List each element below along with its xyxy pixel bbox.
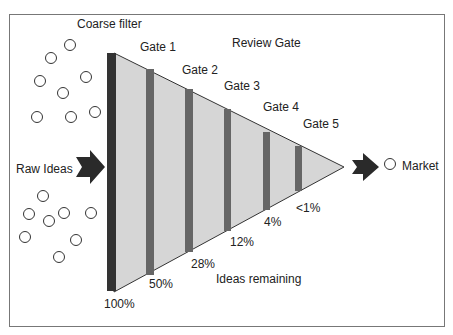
remaining-gate-1-label: 50%	[149, 277, 173, 291]
gate-2-label: Gate 2	[182, 63, 218, 77]
remaining-gate-3-label: 12%	[230, 235, 254, 249]
gate-5-bar	[295, 146, 302, 191]
gate-3-bar	[224, 109, 231, 231]
gate-2-bar	[185, 89, 193, 252]
market-idea-circle	[385, 159, 396, 170]
remaining-gate-4-label: 4%	[264, 215, 281, 229]
remaining-100-label: 100%	[104, 297, 135, 311]
market-label: Market	[402, 159, 439, 173]
gate-1-label: Gate 1	[140, 40, 176, 54]
coarse-filter-label: Coarse filter	[77, 17, 142, 31]
raw-ideas-label: Raw Ideas	[16, 162, 73, 176]
remaining-gate-2-label: 28%	[191, 257, 215, 271]
review-gate-label: Review Gate	[232, 36, 301, 50]
gate-3-label: Gate 3	[224, 79, 260, 93]
remaining-gate-5-label: <1%	[296, 201, 320, 215]
gate-4-bar	[263, 132, 270, 210]
gate-4-label: Gate 4	[263, 100, 299, 114]
gate-5-label: Gate 5	[303, 117, 339, 131]
market-arrow-icon	[352, 153, 379, 181]
ideas-remaining-label: Ideas remaining	[216, 272, 301, 286]
gate-1-bar	[146, 69, 154, 275]
raw-ideas-arrow-icon	[76, 150, 105, 184]
coarse-filter-bar	[107, 53, 116, 291]
